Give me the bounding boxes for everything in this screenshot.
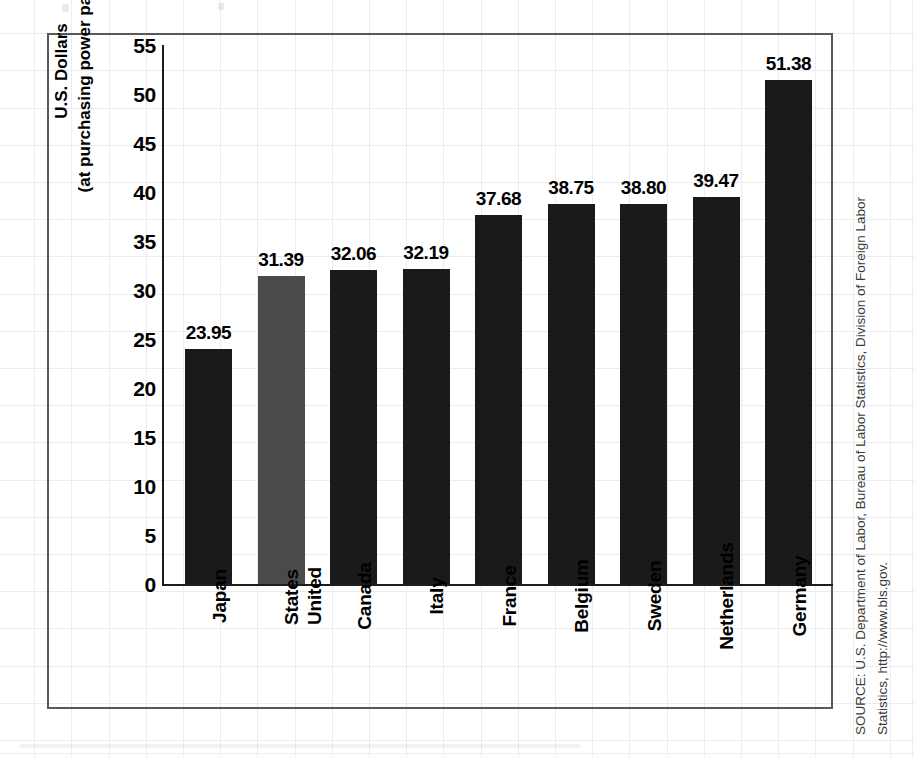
bar-value-label: 37.68 xyxy=(460,188,537,210)
y-tick-label: 25 xyxy=(110,329,156,350)
bar-value-label: 38.75 xyxy=(533,177,610,199)
y-tick-label: 45 xyxy=(110,133,156,154)
y-tick-label: 10 xyxy=(110,476,156,497)
y-tick-label: 40 xyxy=(110,182,156,203)
category-label-germany: Germany xyxy=(765,592,812,742)
bar-value-label: 32.06 xyxy=(315,243,392,265)
y-tick-label: 50 xyxy=(110,84,156,105)
category-label-line: France xyxy=(499,565,521,626)
bar-canada xyxy=(330,270,377,584)
category-label-line: States xyxy=(281,569,303,625)
y-tick-label: 20 xyxy=(110,378,156,399)
category-label-belgium: Belgium xyxy=(548,592,595,742)
bar-france xyxy=(475,215,522,584)
y-tick-label: 35 xyxy=(110,231,156,252)
y-tick-label: 15 xyxy=(110,427,156,448)
source-note-line-1: SOURCE: U.S. Department of Labor, Bureau… xyxy=(853,175,870,735)
bar-netherlands xyxy=(693,197,740,584)
category-label-line: Canada xyxy=(354,562,376,629)
bar-value-label: 32.19 xyxy=(388,242,465,264)
bar-germany xyxy=(765,80,812,584)
bar-italy xyxy=(403,269,450,584)
bar-japan xyxy=(185,349,232,584)
category-label-italy: Italy xyxy=(403,592,450,742)
y-axis-title-line-2: (at purchasing power parities) xyxy=(75,0,95,192)
scan-artifact-top-mid xyxy=(218,3,224,10)
category-label-line: Belgium xyxy=(571,559,593,633)
category-label-line: Japan xyxy=(209,569,231,623)
bar-value-label: 39.47 xyxy=(678,170,755,192)
y-tick-label: 30 xyxy=(110,280,156,301)
category-label-netherlands: Netherlands xyxy=(693,592,740,742)
bar-value-label: 31.39 xyxy=(243,249,320,271)
bar-sweden xyxy=(620,204,667,584)
bar-value-label: 38.80 xyxy=(605,177,682,199)
source-note: Statistics, http://www.bls.gov. SOURCE: … xyxy=(853,175,892,735)
bar-value-label: 51.38 xyxy=(750,53,827,75)
y-axis-tick-labels: 55 50 45 40 35 30 25 20 15 10 5 0 xyxy=(104,0,156,757)
y-tick-label: 5 xyxy=(110,525,156,546)
y-tick-label: 55 xyxy=(110,35,156,56)
category-label-line: Netherlands xyxy=(716,542,738,650)
y-axis-title-line-1: U.S. Dollars xyxy=(52,23,72,118)
category-label-line: United xyxy=(304,567,326,625)
category-label-canada: Canada xyxy=(330,592,377,742)
source-note-line-2: Statistics, http://www.bls.gov. xyxy=(875,175,892,735)
category-label-france: France xyxy=(475,592,522,742)
bar-value-label: 23.95 xyxy=(170,322,247,344)
y-tick-label: 0 xyxy=(110,574,156,595)
bar-belgium xyxy=(548,204,595,584)
category-label-line: Sweden xyxy=(644,561,666,632)
y-axis-title: U.S. Dollars (at purchasing power pariti… xyxy=(52,0,94,236)
category-label-line: Germany xyxy=(789,556,811,637)
category-label-line: Italy xyxy=(426,577,448,614)
category-label-japan: Japan xyxy=(185,592,232,742)
category-label-united-states: UnitedStates xyxy=(258,592,305,742)
category-label-sweden: Sweden xyxy=(620,592,667,742)
bar-united-states xyxy=(258,276,305,584)
